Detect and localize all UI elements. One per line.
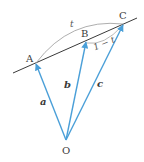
vector-c-label: c	[97, 78, 103, 89]
point-c-label: C	[119, 10, 127, 21]
line-abc	[13, 18, 137, 73]
vector-b-label: b	[64, 79, 71, 90]
diagram-canvas: A B C O a b c t 1 − t	[0, 0, 144, 162]
point-o-label: O	[62, 145, 70, 156]
segment-t-label: t	[70, 19, 74, 29]
vector-a-label: a	[40, 96, 46, 107]
point-b-label: B	[81, 28, 88, 39]
point-a-label: A	[25, 53, 34, 64]
vector-line-diagram: A B C O a b c t 1 − t	[0, 0, 144, 162]
vector-b-arrow	[66, 42, 86, 140]
segment-one-minus-t-label: 1 − t	[92, 34, 117, 52]
